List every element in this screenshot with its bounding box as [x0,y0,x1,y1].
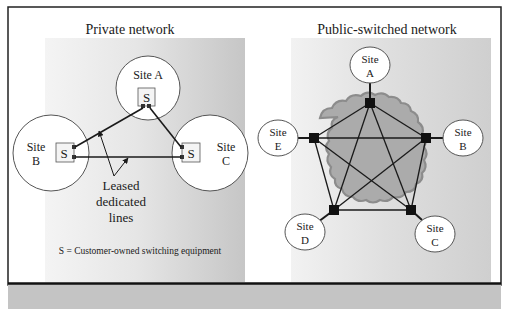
site-b-oval: Site B [443,120,483,156]
private-network-title: Private network [85,22,174,37]
site-a-port-left [141,104,145,108]
site-a-switch-label: S [143,90,150,105]
site-b-line1: Site [454,126,471,138]
site-c-line2: C [431,236,438,248]
site-a-label: Site A [133,68,163,82]
carrier-cloud [320,93,427,203]
site-c-line1: Site [426,222,443,234]
site-e-line1: Site [269,126,286,138]
site-c-label-line2: C [222,154,230,168]
site-c-switch-label: S [187,146,194,161]
site-b-circle [13,115,89,191]
site-c-oval: Site C [415,216,455,252]
node-e [309,133,319,143]
site-a-port-right [147,104,151,108]
switch-legend: S = Customer-owned switching equipment [59,246,222,256]
node-c [406,205,416,215]
callout-label-line3: lines [109,210,134,225]
site-e-line2: E [275,140,282,152]
footer-band [8,283,501,309]
node-a [365,98,375,108]
site-c-label-line1: Site [217,140,236,154]
site-a-line2: A [366,67,374,79]
node-d [329,205,339,215]
site-e-oval: Site E [258,120,298,156]
network-comparison-figure: Private network Site A S Site B S Site C… [0,0,508,309]
site-b-line2: B [459,140,466,152]
site-a-line1: Site [361,53,378,65]
node-b [421,133,431,143]
site-d-line2: D [301,234,309,246]
site-d-oval: Site D [285,214,325,250]
callout-label-line2: dedicated [96,194,146,209]
site-a-oval: Site A [350,47,390,83]
site-b-label-line2: B [32,154,40,168]
public-network-title: Public-switched network [317,22,457,37]
site-b-switch-label: S [60,146,67,161]
callout-label-line1: Leased [103,178,140,193]
public-switched-network-panel: Public-switched network [258,22,491,282]
private-network-panel: Private network Site A S Site B S Site C… [13,22,248,282]
site-b-label-line1: Site [27,140,46,154]
site-d-line1: Site [296,220,313,232]
